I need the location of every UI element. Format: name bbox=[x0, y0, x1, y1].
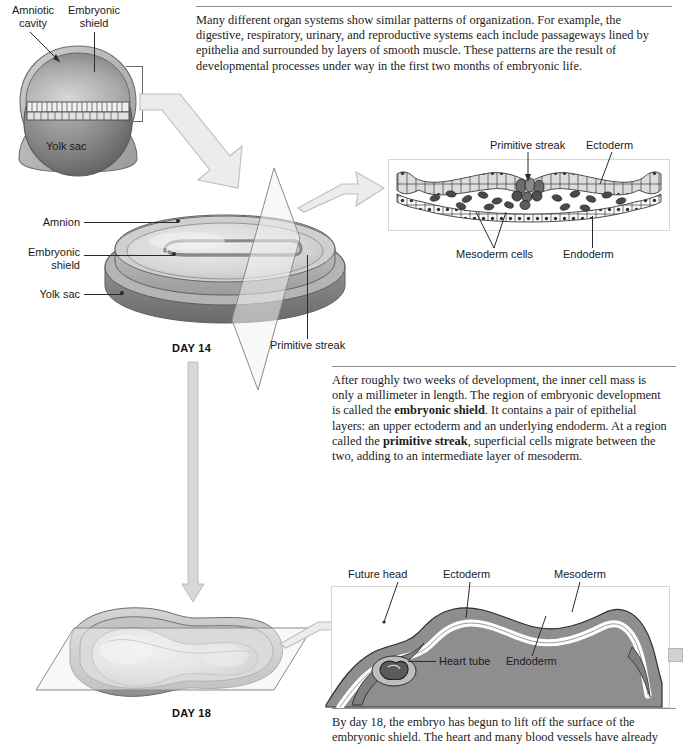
leader-primitive-streak-inset bbox=[524, 152, 532, 184]
day14-paragraph: After roughly two weeks of development, … bbox=[332, 373, 670, 464]
day18-text-block: By day 18, the embryo has begun to lift … bbox=[332, 708, 676, 745]
label-primitive-streak-day14: Primitive streak bbox=[270, 339, 345, 352]
label-embryonic-shield-top: Embryonic shield bbox=[58, 4, 130, 30]
leader-primitive-streak-day14 bbox=[307, 255, 308, 339]
label-embryonic-shield-top-line1: Embryonic bbox=[68, 4, 120, 16]
label-embryonic-shield-day14-line1: Embryonic bbox=[28, 246, 80, 258]
label-embryonic-shield-day14-line2: shield bbox=[51, 259, 80, 271]
day14-text-block: After roughly two weeks of development, … bbox=[332, 366, 676, 464]
leader-mesoderm-day18 bbox=[566, 582, 584, 614]
leader-heart-tube bbox=[408, 661, 436, 662]
day18-paragraph: By day 18, the embryo has begun to lift … bbox=[332, 715, 670, 745]
label-amniotic-cavity-line2: cavity bbox=[19, 17, 47, 29]
page-edge-tab bbox=[668, 648, 683, 662]
leader-amnion-dot bbox=[176, 219, 180, 223]
label-embryonic-shield-top-line2: shield bbox=[80, 17, 109, 29]
label-embryonic-shield-day14: Embryonic shield bbox=[6, 246, 80, 272]
leader-endoderm-inset bbox=[592, 216, 593, 248]
label-yolk-sac-top: Yolk sac bbox=[46, 140, 87, 153]
label-yolk-sac-day14: Yolk sac bbox=[20, 288, 80, 301]
leader-embryonic-shield-day14-dot bbox=[172, 252, 176, 256]
label-amnion: Amnion bbox=[20, 216, 80, 229]
day14-rule bbox=[332, 366, 676, 367]
intro-text-block: Many different organ systems show simila… bbox=[196, 6, 672, 74]
intro-rule bbox=[196, 6, 672, 7]
intro-paragraph: Many different organ systems show simila… bbox=[196, 13, 656, 74]
leader-embryonic-shield-day14 bbox=[84, 255, 174, 256]
arrow-day14-to-day18 bbox=[180, 362, 206, 604]
day14-label: DAY 14 bbox=[172, 342, 211, 354]
leader-ectoderm-day18 bbox=[460, 582, 474, 620]
label-primitive-streak-inset: Primitive streak bbox=[490, 139, 565, 152]
label-mesoderm-cells-inset: Mesoderm cells bbox=[456, 248, 533, 261]
label-mesoderm-day18: Mesoderm bbox=[554, 568, 606, 581]
label-ectoderm-day18: Ectoderm bbox=[443, 568, 490, 581]
leader-yolk-sac-day14 bbox=[84, 294, 122, 295]
leader-mesoderm-cells-inset bbox=[466, 212, 516, 248]
label-amniotic-cavity: Amniotic cavity bbox=[2, 4, 64, 30]
label-ectoderm-inset: Ectoderm bbox=[586, 139, 633, 152]
label-future-head: Future head bbox=[348, 568, 407, 581]
leader-amnion bbox=[84, 222, 178, 223]
label-heart-tube: Heart tube bbox=[439, 655, 490, 668]
leader-ectoderm-inset bbox=[596, 152, 620, 186]
day18-section-plane bbox=[36, 628, 312, 700]
day18-label: DAY 18 bbox=[172, 707, 211, 719]
arrow-day14-to-inset bbox=[298, 168, 386, 212]
leader-endoderm-day18 bbox=[522, 616, 550, 656]
leader-embryonic-shield-top bbox=[94, 32, 95, 72]
label-amniotic-cavity-line1: Amniotic bbox=[12, 4, 54, 16]
label-endoderm-day18: Endoderm bbox=[506, 655, 557, 668]
leader-future-head bbox=[380, 582, 402, 624]
leader-yolk-sac-day14-dot bbox=[120, 291, 124, 295]
embryonic-shield-cells bbox=[27, 102, 129, 120]
day18-rule bbox=[332, 708, 676, 709]
leader-amniotic-cavity bbox=[28, 32, 64, 68]
label-endoderm-inset: Endoderm bbox=[563, 248, 614, 261]
